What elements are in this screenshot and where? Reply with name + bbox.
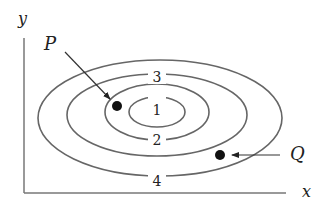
point-q [215, 150, 225, 160]
arrow-p [65, 52, 110, 99]
point-p-label: P [43, 33, 57, 54]
contour-label-2: 2 [153, 132, 162, 148]
contour-label-1: 1 [153, 102, 162, 118]
contour-label-4: 4 [153, 173, 162, 189]
contour-label-3: 3 [153, 69, 162, 85]
point-q-label: Q [290, 143, 305, 164]
x-axis-label: x [302, 182, 311, 201]
y-axis-label: y [17, 9, 28, 28]
contour-diagram: y x 1 2 3 4 P Q [0, 0, 325, 208]
point-p [112, 101, 122, 111]
